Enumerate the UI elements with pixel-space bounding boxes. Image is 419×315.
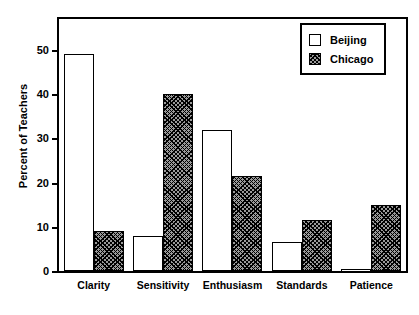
legend-item-beijing: Beijing: [309, 30, 373, 49]
bar-chicago-clarity: [94, 231, 124, 271]
bar-beijing-standards: [272, 242, 302, 271]
legend-label: Chicago: [330, 53, 373, 65]
legend-swatch-beijing: [309, 34, 321, 46]
legend-label: Beijing: [330, 34, 367, 46]
y-axis-tick-label: 10: [37, 221, 49, 233]
x-axis-tick-label: Patience: [350, 279, 393, 291]
bar-beijing-enthusiasm: [202, 130, 232, 271]
legend-item-chicago: Chicago: [309, 49, 373, 68]
bar-beijing-sensitivity: [133, 236, 163, 271]
bar-beijing-patience: [341, 269, 371, 271]
x-axis-tick-label: Clarity: [77, 279, 110, 291]
bar-chicago-standards: [302, 220, 332, 271]
y-axis-tick: [52, 183, 59, 185]
bar-chicago-sensitivity: [163, 94, 193, 271]
y-axis-tick-label: 20: [37, 177, 49, 189]
y-axis-tick: [52, 227, 59, 229]
y-axis-tick: [52, 138, 59, 140]
y-axis-tick-label: 30: [37, 132, 49, 144]
y-axis-tick: [52, 271, 59, 273]
bar-group: [198, 19, 267, 271]
bar-group: [59, 19, 128, 271]
y-axis-tick-label: 50: [37, 44, 49, 56]
x-axis-tick-label: Sensitivity: [137, 279, 190, 291]
bar-group: [128, 19, 197, 271]
bar-chicago-enthusiasm: [232, 176, 262, 271]
bar-beijing-clarity: [64, 54, 94, 271]
x-axis-tick-label: Enthusiasm: [203, 279, 263, 291]
x-axis-tick-label: Standards: [276, 279, 327, 291]
y-axis-title: Percent of Teachers: [17, 41, 29, 231]
bar-chicago-patience: [371, 205, 401, 271]
y-axis-tick: [52, 50, 59, 52]
legend-swatch-chicago: [309, 53, 321, 65]
legend: BeijingChicago: [300, 23, 386, 75]
y-axis-tick-label: 0: [43, 265, 49, 277]
y-axis-tick: [52, 94, 59, 96]
y-axis-tick-label: 40: [37, 88, 49, 100]
bar-chart: Percent of Teachers 01020304050 ClarityS…: [0, 0, 419, 315]
